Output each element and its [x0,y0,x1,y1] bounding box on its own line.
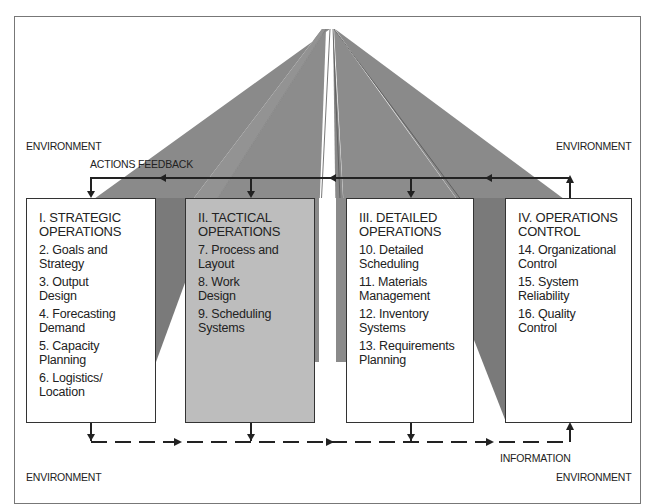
box-tactical-operations: II. TACTICAL OPERATIONS 7. Process andLa… [185,198,315,423]
environment-label-top-right: ENVIRONMENT [556,140,631,152]
list-item: 3. OutputDesign [39,275,151,303]
list-item: 4. ForecastingDemand [39,307,151,335]
list-item: 10. DetailedScheduling [359,243,469,271]
box-detailed-operations: III. DETAILED OPERATIONS 10. DetailedSch… [346,198,474,423]
list-item: 8. WorkDesign [198,275,310,303]
list-item: 7. Process andLayout [198,243,310,271]
list-item: 5. CapacityPlanning [39,339,151,367]
box-title: II. TACTICAL OPERATIONS [198,211,310,239]
list-item: 9. SchedulingSystems [198,307,310,335]
box-title: III. DETAILED OPERATIONS [359,211,469,239]
information-arrows [87,422,574,446]
box-title: IV. OPERATIONS CONTROL [518,211,627,239]
list-item: 2. Goals andStrategy [39,243,151,271]
list-item: 12. InventorySystems [359,307,469,335]
list-item: 6. Logistics/Location [39,371,151,399]
list-item: 11. MaterialsManagement [359,275,469,303]
environment-label-bottom-right: ENVIRONMENT [556,471,631,483]
box-operations-control: IV. OPERATIONS CONTROL 14. Organizationa… [505,198,632,423]
list-item: 16. QualityControl [518,307,627,335]
box-title: I. STRATEGIC OPERATIONS [39,211,151,239]
actions-feedback-label: ACTIONS FEEDBACK [90,158,193,170]
list-item: 15. SystemReliability [518,275,627,303]
environment-label-top-left: ENVIRONMENT [26,140,101,152]
information-label: INFORMATION [500,452,571,464]
list-item: 14. OrganizationalControl [518,243,627,271]
operations-system-diagram: ENVIRONMENT ENVIRONMENT ACTIONS FEEDBACK… [0,0,654,504]
list-item: 13. RequirementsPlanning [359,339,469,367]
environment-label-bottom-left: ENVIRONMENT [26,471,101,483]
box-strategic-operations: I. STRATEGIC OPERATIONS 2. Goals andStra… [26,198,156,423]
